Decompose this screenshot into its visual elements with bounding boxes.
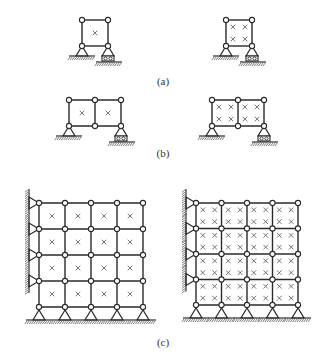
pin-support bbox=[137, 310, 149, 320]
ground-hatch bbox=[73, 321, 75, 324]
ground-hatch bbox=[77, 137, 79, 140]
ground-hatch bbox=[216, 57, 218, 60]
ground-hatch bbox=[248, 319, 250, 322]
wall-hatch bbox=[25, 290, 28, 292]
ground-hatch bbox=[92, 57, 94, 60]
hinge-node bbox=[193, 200, 198, 205]
wall-hatch bbox=[25, 244, 28, 246]
wall-hatch bbox=[182, 197, 185, 199]
wall-hatch bbox=[182, 218, 185, 220]
wall-hatch bbox=[182, 199, 185, 201]
ground-hatch bbox=[42, 321, 44, 324]
wall-hatch bbox=[182, 286, 185, 288]
ground-hatch bbox=[79, 137, 81, 140]
hinge-node bbox=[114, 304, 119, 309]
ground-hatch bbox=[299, 319, 301, 322]
ground-hatch bbox=[146, 321, 148, 324]
wall-hatch bbox=[25, 234, 28, 236]
ground-hatch bbox=[241, 63, 243, 66]
hinge-node bbox=[79, 17, 84, 22]
wall-hatch bbox=[25, 205, 28, 207]
ground-hatch bbox=[262, 143, 264, 146]
wall-hatch bbox=[182, 235, 185, 237]
hinge-node bbox=[140, 226, 145, 231]
ground-hatch bbox=[66, 321, 68, 324]
hinge-node bbox=[88, 278, 93, 283]
ground-hatch bbox=[75, 137, 77, 140]
ground-hatch bbox=[81, 57, 83, 60]
ground-hatch bbox=[286, 319, 288, 322]
ground-hatch bbox=[255, 143, 257, 146]
ground-hatch bbox=[273, 143, 275, 146]
ground-hatch bbox=[34, 321, 36, 324]
ground-hatch bbox=[110, 63, 112, 66]
ground-hatch bbox=[108, 63, 110, 66]
hinge-node bbox=[140, 200, 145, 205]
hinge-node bbox=[209, 123, 214, 128]
ground-hatch bbox=[295, 319, 297, 322]
ground-hatch bbox=[79, 57, 81, 60]
ground-hatch bbox=[90, 321, 92, 324]
ground-hatch bbox=[221, 319, 223, 322]
ground-hatch bbox=[304, 319, 306, 322]
panel-label-c: (c) bbox=[157, 336, 169, 348]
ground-hatch bbox=[207, 137, 209, 140]
wall-hatch bbox=[182, 233, 185, 235]
ground-hatch bbox=[99, 63, 101, 66]
wall-hatch bbox=[182, 256, 185, 258]
roller-wheel bbox=[260, 137, 263, 140]
roller-wheel bbox=[109, 57, 112, 60]
wall-hatch bbox=[25, 279, 28, 281]
ground-hatch bbox=[108, 143, 110, 146]
hinge-node bbox=[244, 226, 249, 231]
ground-hatch bbox=[216, 319, 218, 322]
ground-hatch bbox=[193, 319, 195, 322]
ground-hatch bbox=[235, 319, 237, 322]
wall-hatch bbox=[25, 260, 28, 262]
ground-hatch bbox=[64, 321, 66, 324]
structural-diagram bbox=[0, 0, 326, 358]
ground-hatch bbox=[88, 57, 90, 60]
hinge-node bbox=[295, 302, 300, 307]
ground-hatch bbox=[204, 137, 206, 140]
wall-hatch bbox=[182, 254, 185, 256]
hinge-node bbox=[79, 43, 84, 48]
ground-hatch bbox=[123, 143, 125, 146]
pin-support bbox=[267, 308, 279, 318]
wall-hatch bbox=[182, 280, 185, 282]
wall-hatch bbox=[182, 278, 185, 280]
ground-hatch bbox=[191, 319, 193, 322]
ground-hatch bbox=[83, 57, 85, 60]
ground-hatch bbox=[68, 137, 70, 140]
wall-hatch bbox=[25, 218, 28, 220]
ground-hatch bbox=[81, 321, 83, 324]
ground-hatch bbox=[215, 137, 217, 140]
ground-hatch bbox=[222, 137, 224, 140]
ground-hatch bbox=[263, 319, 265, 322]
hinge-node bbox=[244, 251, 249, 256]
ground-hatch bbox=[232, 57, 234, 60]
ground-hatch bbox=[71, 321, 73, 324]
ground-hatch bbox=[272, 319, 274, 322]
ground-hatch bbox=[220, 137, 222, 140]
ground-hatch bbox=[105, 321, 107, 324]
ground-hatch bbox=[261, 63, 263, 66]
hinge-node bbox=[36, 252, 41, 257]
wall-hatch bbox=[182, 201, 185, 203]
ground-hatch bbox=[297, 319, 299, 322]
roller-wheel bbox=[104, 57, 107, 60]
wall-hatch bbox=[182, 227, 185, 229]
ground-hatch bbox=[95, 63, 97, 66]
ground-hatch bbox=[260, 143, 262, 146]
roller-wheel bbox=[248, 57, 251, 60]
hinge-node bbox=[244, 302, 249, 307]
ground-hatch bbox=[276, 319, 278, 322]
wall-hatch bbox=[25, 208, 28, 210]
ground-hatch bbox=[301, 319, 303, 322]
wall-hatch bbox=[182, 238, 185, 240]
hinge-node bbox=[140, 304, 145, 309]
wall-hatch bbox=[25, 246, 28, 248]
hinge-node bbox=[235, 97, 240, 102]
pin-support bbox=[292, 308, 304, 318]
pin-support bbox=[59, 310, 71, 320]
